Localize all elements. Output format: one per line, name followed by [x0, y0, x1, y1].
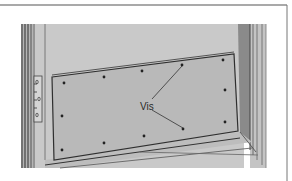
screw-icon: [63, 82, 66, 85]
door-kick-plate-diagram: Vis: [0, 0, 292, 181]
screw-icon: [103, 76, 106, 79]
screw-icon: [141, 70, 144, 73]
screw-icon: [182, 128, 185, 131]
screw-icon: [222, 59, 225, 62]
screw-icon: [61, 149, 64, 152]
screw-icon: [224, 121, 227, 124]
hinge: [34, 76, 42, 122]
screw-icon: [103, 142, 106, 145]
screw-icon: [181, 64, 184, 67]
screw-label: Vis: [140, 101, 154, 112]
screw-icon: [61, 115, 64, 118]
screw-icon: [143, 135, 146, 138]
screw-icon: [224, 89, 227, 92]
